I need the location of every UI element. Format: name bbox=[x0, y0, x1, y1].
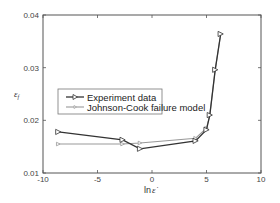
data-point-marker bbox=[56, 129, 61, 134]
y-axis-label: εf bbox=[14, 89, 21, 100]
y-tick-label: 0.01 bbox=[23, 169, 39, 178]
data-point-marker bbox=[137, 146, 142, 151]
x-tick-label: 5 bbox=[204, 175, 209, 184]
x-tick-label: -5 bbox=[94, 175, 102, 184]
legend: Experiment data Johnson-Cook failure mod… bbox=[58, 89, 205, 114]
data-point-marker bbox=[120, 137, 125, 142]
x-axis-label: lnε̇ bbox=[144, 185, 159, 195]
data-point-marker bbox=[121, 142, 125, 146]
legend-label-johnson-cook: Johnson-Cook failure model bbox=[87, 102, 205, 113]
data-point-marker bbox=[56, 142, 60, 146]
x-tick-label: 10 bbox=[257, 175, 266, 184]
chart: -10-505100.010.020.030.04 Experiment dat… bbox=[0, 0, 280, 203]
y-tick-label: 0.03 bbox=[23, 64, 39, 73]
x-tick-label: -10 bbox=[37, 175, 49, 184]
data-point-marker bbox=[138, 141, 142, 145]
y-tick-label: 0.04 bbox=[23, 11, 39, 20]
legend-entry-johnson-cook: Johnson-Cook failure model bbox=[66, 102, 205, 113]
x-tick-label: 0 bbox=[150, 175, 155, 184]
y-tick-label: 0.02 bbox=[23, 116, 39, 125]
